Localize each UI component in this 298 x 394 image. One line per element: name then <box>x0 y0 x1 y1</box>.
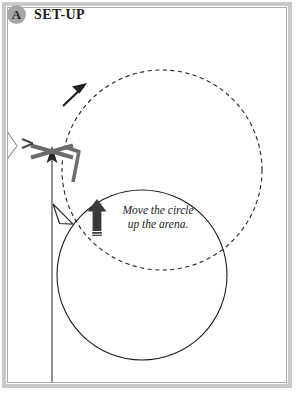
arena-diagram-artwork <box>0 0 298 394</box>
dashed-circle <box>62 70 262 270</box>
page-title: SET-UP <box>34 7 85 23</box>
direction-arrowhead-hollow-icon <box>53 204 73 224</box>
diagram-page: A SET-UP Move the circle up the arena. <box>0 0 298 394</box>
section-badge: A <box>7 5 26 24</box>
move-up-arrow-icon <box>88 199 107 236</box>
section-header: A SET-UP <box>7 5 85 24</box>
direction-arrowhead-dashed-icon <box>63 83 87 106</box>
arena-gate-mark-icon <box>1 122 17 166</box>
instruction-annotation: Move the circle up the arena. <box>106 203 210 231</box>
crossrail-jump-icon <box>31 146 80 183</box>
